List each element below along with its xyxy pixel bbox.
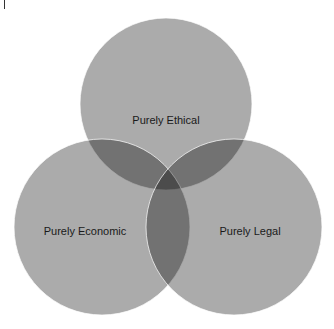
label-purely-economic: Purely Economic: [44, 225, 127, 237]
venn-circles: [14, 18, 322, 315]
label-purely-legal: Purely Legal: [219, 225, 280, 237]
label-purely-ethical: Purely Ethical: [132, 114, 199, 126]
venn-diagram: Purely Ethical Purely Economic Purely Le…: [0, 0, 334, 329]
